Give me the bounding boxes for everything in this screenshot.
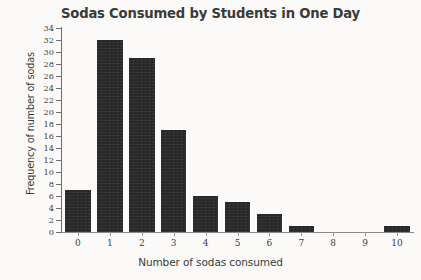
x-axis-tick [174, 232, 175, 236]
y-axis-tick-label: 8 [49, 180, 54, 188]
y-axis-tick [56, 88, 62, 89]
x-axis-tick [333, 232, 334, 236]
bar [225, 202, 251, 232]
y-axis-tick-label: 32 [44, 36, 54, 44]
y-axis-tick [56, 52, 62, 53]
x-axis-tick [269, 232, 270, 236]
bar [257, 214, 283, 232]
bar [97, 40, 123, 232]
x-axis-tick-label: 2 [139, 238, 145, 248]
chart-title: Sodas Consumed by Students in One Day [0, 6, 421, 21]
y-axis-tick [56, 196, 62, 197]
y-axis-tick [56, 184, 62, 185]
y-axis-tick [56, 232, 62, 233]
x-axis-tick-label: 6 [267, 238, 273, 248]
x-axis-tick [142, 232, 143, 236]
y-axis-tick-label: 10 [44, 168, 54, 176]
y-axis-tick-label: 34 [44, 24, 54, 32]
y-axis-title: Frequency of number of sodas [25, 39, 36, 209]
y-axis-tick [56, 136, 62, 137]
x-axis-tick-label: 0 [75, 238, 81, 248]
y-axis-tick [56, 64, 62, 65]
y-axis-tick-label: 0 [49, 228, 54, 236]
y-axis-tick [56, 76, 62, 77]
y-axis-tick [56, 124, 62, 125]
x-axis-tick-label: 3 [171, 238, 177, 248]
y-axis-tick-label: 18 [44, 120, 54, 128]
plot-area [62, 28, 413, 232]
y-axis-tick-label: 16 [44, 132, 54, 140]
y-axis-tick-label: 30 [44, 48, 54, 56]
y-axis-tick [56, 208, 62, 209]
y-axis-tick-label: 14 [44, 144, 54, 152]
y-axis-tick [56, 40, 62, 41]
x-axis-tick-label: 4 [203, 238, 209, 248]
x-axis-tick [397, 232, 398, 236]
y-axis-tick-label: 12 [44, 156, 54, 164]
x-axis-tick-label: 7 [298, 238, 304, 248]
y-axis-tick-label: 24 [44, 84, 54, 92]
x-axis-tick [206, 232, 207, 236]
y-axis-tick-label: 20 [44, 108, 54, 116]
y-axis-tick [56, 160, 62, 161]
bar [129, 58, 155, 232]
x-axis-tick [238, 232, 239, 236]
x-axis-tick-label: 10 [391, 238, 402, 248]
x-axis-title: Number of sodas consumed [0, 256, 421, 268]
chart-figure: Sodas Consumed by Students in One Day 02… [0, 0, 421, 280]
y-axis-tick-label: 26 [44, 72, 54, 80]
y-axis-tick [56, 172, 62, 173]
y-axis-tick [56, 112, 62, 113]
x-axis-tick-label: 1 [107, 238, 113, 248]
y-axis-tick-label: 6 [49, 192, 54, 200]
x-axis-tick [78, 232, 79, 236]
y-axis-tick-label: 22 [44, 96, 54, 104]
y-axis-tick-label: 2 [49, 216, 54, 224]
x-axis-tick [110, 232, 111, 236]
y-axis-tick [56, 28, 62, 29]
y-axis-tick-label: 4 [49, 204, 54, 212]
x-axis-tick-label: 8 [330, 238, 336, 248]
y-axis-tick-label: 28 [44, 60, 54, 68]
x-axis-tick-label: 5 [235, 238, 241, 248]
x-axis-tick [301, 232, 302, 236]
y-axis-tick [56, 148, 62, 149]
y-axis-tick [56, 100, 62, 101]
y-axis-tick [56, 220, 62, 221]
bar [193, 196, 219, 232]
bar [161, 130, 187, 232]
x-axis-tick [365, 232, 366, 236]
x-axis-tick-label: 9 [362, 238, 368, 248]
bar [65, 190, 91, 232]
